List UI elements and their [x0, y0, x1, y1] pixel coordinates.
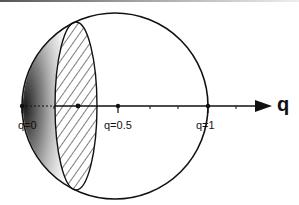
sphere-diagram	[0, 0, 299, 205]
arrow-head-icon	[255, 100, 272, 112]
point-center	[76, 104, 81, 109]
label-q05: q=0.5	[104, 120, 132, 131]
axis-label-q: q	[277, 94, 289, 114]
label-q1: q=1	[196, 120, 215, 131]
label-q0: q=0	[18, 120, 37, 131]
